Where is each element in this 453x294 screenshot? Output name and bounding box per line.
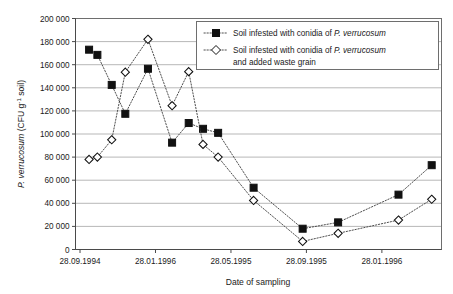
data-point-marker[interactable] [94,51,101,58]
y-tick-label: 160 000 [40,61,70,70]
data-point-marker[interactable] [168,102,176,110]
data-point-marker[interactable] [250,184,257,191]
data-point-marker[interactable] [108,81,115,88]
x-axis-ticks: 28.09.199428.01.199628.05.199528.09.1995… [60,250,403,266]
chart-container: 020 00040 00060 00080 000100 000120 0001… [0,0,453,294]
svg-text:P. verrucosum (CFU g-1 soil): P. verrucosum (CFU g-1 soil) [15,80,27,188]
line-chart: 020 00040 00060 00080 000100 000120 0001… [0,0,453,294]
data-point-marker[interactable] [122,110,129,117]
data-point-marker[interactable] [215,129,222,136]
x-tick-label: 28.09.1995 [286,257,327,266]
legend-label-2-line2: and added waste grain [233,58,316,67]
data-point-marker[interactable] [185,120,192,127]
x-tick-label: 28.09.1994 [60,257,101,266]
data-point-marker[interactable] [334,229,342,237]
data-point-marker[interactable] [121,68,129,76]
legend-label-1: Soil infested with conidia of P. verruco… [233,29,386,38]
series-line-1 [89,50,432,229]
y-axis-ticks: 020 00040 00060 00080 000100 000120 0001… [40,15,76,255]
legend: Soil infested with conidia of P. verruco… [197,22,439,70]
y-tick-label: 200 000 [40,15,70,24]
data-point-marker[interactable] [428,162,435,169]
y-tick-label: 20 000 [44,222,69,231]
data-point-marker[interactable] [299,225,306,232]
y-tick-label: 140 000 [40,84,70,93]
data-point-marker[interactable] [299,237,307,245]
data-point-marker[interactable] [144,35,152,43]
legend-label-2: Soil infested with conidia of P. verruco… [233,46,386,55]
data-point-marker[interactable] [395,191,402,198]
y-tick-label: 180 000 [40,38,70,47]
y-tick-label: 120 000 [40,107,70,116]
data-point-marker[interactable] [394,216,402,224]
data-point-marker[interactable] [185,68,193,76]
y-tick-label: 60 000 [44,176,69,185]
y-tick-label: 40 000 [44,199,69,208]
data-point-marker[interactable] [335,219,342,226]
x-tick-label: 28.01.1996 [361,257,402,266]
data-point-marker[interactable] [428,195,436,203]
data-point-marker[interactable] [169,139,176,146]
filled-square-marker-icon [213,30,220,37]
x-tick-label: 28.01.1996 [135,257,176,266]
y-axis-title: P. verrucosum (CFU g-1 soil) [15,80,27,188]
data-point-marker[interactable] [144,65,151,72]
y-tick-label: 80 000 [44,153,69,162]
x-tick-label: 28.05.1995 [210,257,251,266]
data-point-marker[interactable] [85,155,93,163]
y-tick-label: 0 [65,246,70,255]
y-tick-label: 100 000 [40,130,70,139]
x-axis-title: Date of sampling [226,277,291,287]
data-point-marker[interactable] [86,46,93,53]
